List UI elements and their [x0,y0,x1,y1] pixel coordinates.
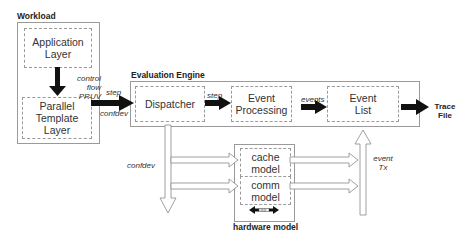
confdev-down-arrow-icon [160,125,176,213]
confdev-to-cache-arrow-icon [171,153,238,167]
event-tx-up-arrow-icon [355,130,371,215]
list-to-trace-arrow-icon [401,99,429,115]
arrows-layer [0,0,469,233]
workload-to-dispatcher-arrow-icon [91,95,134,111]
confdev-to-comm-arrow-icon [171,179,238,193]
cache-to-event-arrow-icon [290,153,358,167]
interconnect-double-arrow-icon [249,206,279,214]
dispatcher-to-processing-arrow-icon [205,96,231,110]
processing-to-list-arrow-icon [301,100,327,114]
control-flow-arrow-icon [49,67,66,96]
comm-to-event-arrow-icon [290,179,358,193]
